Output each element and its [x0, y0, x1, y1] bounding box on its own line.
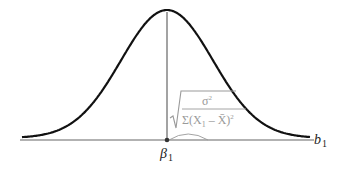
formula-denominator: Σ(X1 – X̄)2	[182, 113, 234, 129]
mean-label-beta1: β1	[159, 146, 173, 163]
formula-numerator: σ2	[202, 94, 212, 108]
axis-label-b1: b1	[314, 132, 327, 149]
mean-point	[165, 138, 170, 143]
normal-distribution-diagram: b1 β1 σ2 Σ(X1 – X̄)2	[0, 0, 344, 171]
standard-error-formula: σ2 Σ(X1 – X̄)2	[170, 91, 246, 129]
sd-arc	[169, 134, 208, 140]
bell-curve	[22, 10, 310, 137]
